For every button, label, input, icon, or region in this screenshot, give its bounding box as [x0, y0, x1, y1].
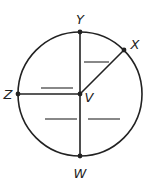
label-V: V	[85, 90, 95, 105]
radius-VX	[80, 50, 124, 94]
label-Z: Z	[3, 87, 14, 102]
point-V	[78, 92, 83, 97]
point-Z	[16, 92, 21, 97]
circle-diagram: Y X Z V W	[0, 0, 154, 194]
point-W	[78, 154, 83, 159]
point-X	[122, 48, 127, 53]
label-Y: Y	[76, 12, 85, 27]
label-X: X	[130, 37, 141, 52]
label-W: W	[74, 166, 88, 181]
point-Y	[78, 30, 83, 35]
